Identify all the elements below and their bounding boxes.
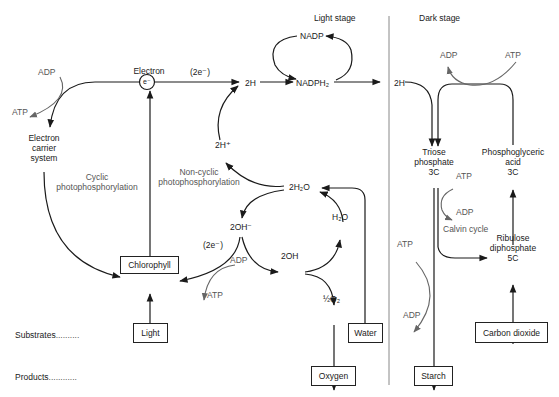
- half-o2-label: ½O₂: [323, 294, 340, 304]
- electron-symbol: e⁻: [143, 77, 151, 87]
- triose-phosphate-label: Triose phosphate 3C: [414, 147, 454, 177]
- two-h-plus-label: 2H⁺: [215, 140, 231, 150]
- adp-left-label: ADP: [38, 67, 55, 77]
- atp-lower-label: ATP: [207, 290, 223, 300]
- ribulose-diphosphate-label: Ribulose diphosphate 5C: [490, 233, 536, 263]
- two-h-label: 2H: [245, 78, 256, 88]
- two-h2o-label: 2H₂O: [289, 182, 310, 192]
- adp-lower-label: ADP: [230, 255, 247, 265]
- starch-box: Starch: [414, 366, 453, 386]
- h2o-label: H₂O: [332, 212, 348, 222]
- cyclic-photophosphorylation-label: Cyclic photophosphorylation: [56, 172, 137, 192]
- dark-adp-lower-label: ADP: [403, 310, 420, 320]
- nadph2-label: NADPH₂: [296, 78, 329, 88]
- nadp-label: NADP: [300, 31, 324, 41]
- dark-atp-mid-label: ATP: [456, 171, 472, 181]
- dark-two-h-label: 2H: [394, 78, 405, 88]
- carbon-dioxide-box: Carbon dioxide: [475, 322, 548, 343]
- electron-label: Electron: [133, 66, 164, 76]
- two-oh-minus-label: 2OH⁻: [230, 222, 252, 232]
- substrates-label: Substrates..........: [15, 330, 79, 340]
- atp-left-label: ATP: [12, 107, 28, 117]
- electron-carrier-system-label: Electron carrier system: [28, 133, 59, 163]
- chlorophyll-box: Chlorophyll: [120, 256, 179, 274]
- dark-atp-lower-label: ATP: [397, 239, 413, 249]
- dark-atp-top-label: ATP: [505, 50, 521, 60]
- two-oh-label: 2OH: [281, 251, 298, 261]
- phosphoglyceric-acid-label: Phosphoglyceric acid 3C: [482, 147, 544, 177]
- two-electrons-lower-label: (2e⁻): [203, 240, 223, 250]
- two-electrons-top-label: (2e⁻): [190, 67, 210, 77]
- calvin-cycle-label: Calvin cycle: [443, 224, 488, 234]
- dark-adp-mid-label: ADP: [456, 207, 473, 217]
- products-label: Products............: [15, 372, 77, 382]
- oxygen-box: Oxygen: [311, 366, 356, 386]
- light-box: Light: [133, 323, 168, 343]
- photosynthesis-diagram: Light stage Dark stage Electron e⁻ (2e⁻)…: [0, 0, 559, 397]
- dark-stage-heading: Dark stage: [419, 13, 460, 23]
- dark-adp-top-label: ADP: [440, 50, 457, 60]
- non-cyclic-photophosphorylation-label: Non-cyclic photophosphorylation: [158, 167, 239, 187]
- water-box: Water: [348, 323, 383, 343]
- light-stage-heading: Light stage: [314, 13, 356, 23]
